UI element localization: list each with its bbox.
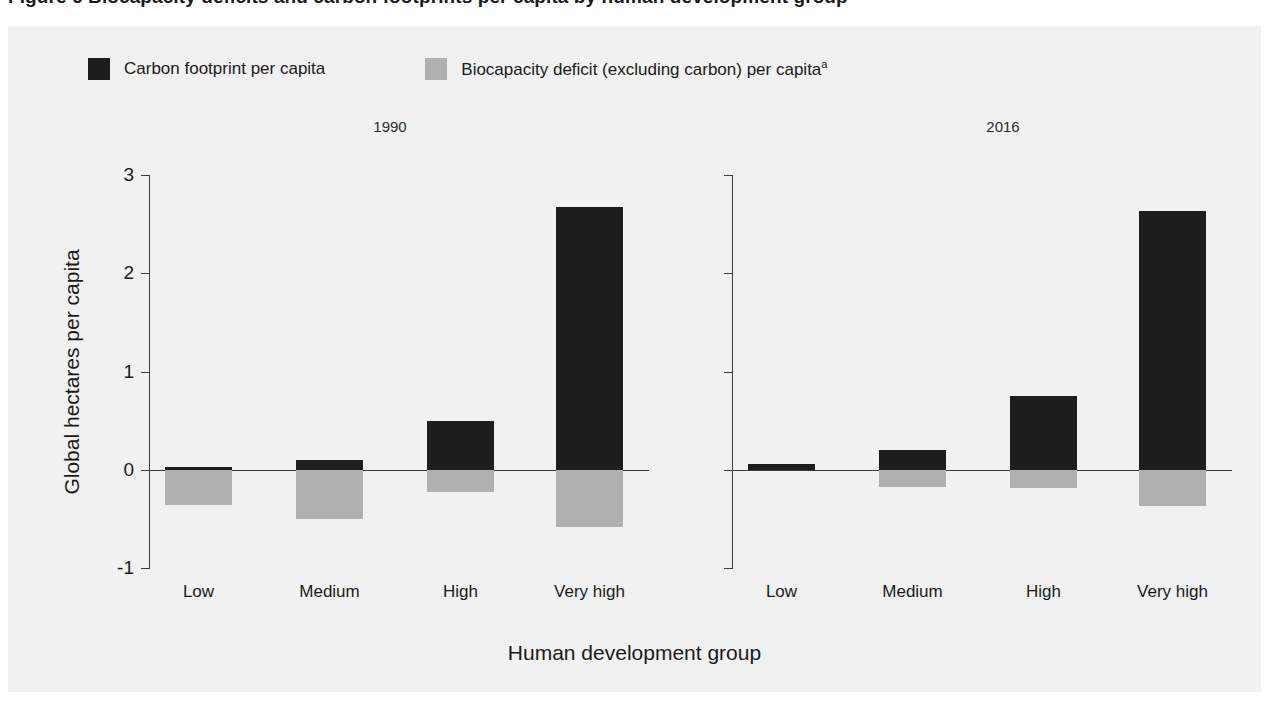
bar-carbon-footprint[interactable] <box>296 460 363 470</box>
bar-group[interactable] <box>427 175 494 568</box>
bar-biocapacity-deficit[interactable] <box>1010 470 1077 489</box>
bar-group[interactable] <box>165 175 232 568</box>
bar-biocapacity-deficit[interactable] <box>1139 470 1206 506</box>
bar-carbon-footprint[interactable] <box>556 207 623 469</box>
x-axis-category-label: Low <box>129 582 269 602</box>
bar-carbon-footprint[interactable] <box>1010 396 1077 470</box>
bar-biocapacity-deficit[interactable] <box>556 470 623 527</box>
bar-group[interactable] <box>296 175 363 568</box>
panel-title-2016: 2016 <box>943 118 1063 135</box>
y-axis-tick <box>724 273 733 274</box>
x-axis-category-label: High <box>391 582 531 602</box>
bar-group[interactable] <box>879 175 946 568</box>
bar-group[interactable] <box>748 175 815 568</box>
legend-swatch-biocapacity-icon <box>425 58 447 80</box>
y-axis-tick-label: 1 <box>102 362 134 381</box>
bar-biocapacity-deficit[interactable] <box>296 470 363 519</box>
bar-group[interactable] <box>1010 175 1077 568</box>
y-axis-tick-label: 2 <box>102 263 134 282</box>
bar-biocapacity-deficit[interactable] <box>879 470 946 488</box>
y-axis-tick-label: 0 <box>102 460 134 479</box>
legend-swatch-carbon-icon <box>88 58 110 80</box>
chart-legend: Carbon footprint per capita Biocapacity … <box>88 58 827 80</box>
legend-item-carbon-footprint: Carbon footprint per capita <box>88 58 325 80</box>
figure-title: Figure 6 Biocapacity deficits and carbon… <box>8 0 1248 10</box>
y-axis-tick-label: -1 <box>102 558 134 577</box>
figure-container: Figure 6 Biocapacity deficits and carbon… <box>0 0 1269 718</box>
x-axis-category-label: High <box>974 582 1114 602</box>
y-axis-tick <box>724 175 733 176</box>
bar-carbon-footprint[interactable] <box>748 464 815 470</box>
y-axis-tick <box>141 273 150 274</box>
bar-biocapacity-deficit[interactable] <box>427 470 494 493</box>
y-axis-tick <box>141 372 150 373</box>
bar-carbon-footprint[interactable] <box>1139 211 1206 469</box>
y-axis-tick <box>141 175 150 176</box>
y-axis-tick <box>724 372 733 373</box>
legend-footnote-marker: a <box>821 58 827 70</box>
x-axis-category-label: Low <box>712 582 852 602</box>
x-axis-title: Human development group <box>0 641 1269 665</box>
x-axis-category-label: Medium <box>260 582 400 602</box>
x-axis-category-label: Very high <box>1103 582 1243 602</box>
bar-group[interactable] <box>1139 175 1206 568</box>
x-axis-category-label: Medium <box>843 582 983 602</box>
y-axis-tick <box>141 568 150 569</box>
bar-carbon-footprint[interactable] <box>879 450 946 470</box>
x-axis-category-label: Very high <box>520 582 660 602</box>
legend-item-biocapacity-deficit: Biocapacity deficit (excluding carbon) p… <box>425 58 827 80</box>
plot-panel-1990: 3210-1LowMediumHighVery high <box>150 175 650 568</box>
y-axis-title: Global hectares per capita <box>60 182 84 562</box>
legend-label-biocapacity: Biocapacity deficit (excluding carbon) p… <box>461 58 827 80</box>
bar-group[interactable] <box>556 175 623 568</box>
plot-panel-2016: LowMediumHighVery high <box>733 175 1233 568</box>
panel-title-1990: 1990 <box>330 118 450 135</box>
bar-biocapacity-deficit[interactable] <box>165 470 232 505</box>
y-axis-tick <box>141 470 150 471</box>
legend-label-carbon: Carbon footprint per capita <box>124 59 325 79</box>
bar-carbon-footprint[interactable] <box>427 421 494 470</box>
y-axis-tick <box>724 470 733 471</box>
y-axis-tick <box>724 568 733 569</box>
y-axis-tick-label: 3 <box>102 165 134 184</box>
